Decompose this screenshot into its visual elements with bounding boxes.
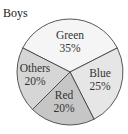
pie-chart: Green 35% Blue 25% Red 20% Others 20% <box>0 0 128 134</box>
slice-name: Green <box>56 29 84 41</box>
slice-name: Red <box>55 89 74 101</box>
slice-pct: 20% <box>24 75 46 87</box>
slice-pct: 20% <box>53 102 75 114</box>
slice-name: Others <box>20 62 51 74</box>
slice-label-blue: Blue 25% <box>89 67 111 92</box>
slice-name: Blue <box>89 67 111 79</box>
slice-pct: 25% <box>89 80 111 92</box>
slice-label-green: Green 35% <box>56 29 84 54</box>
slice-pct: 35% <box>59 42 81 54</box>
slice-label-red: Red 20% <box>53 89 75 114</box>
